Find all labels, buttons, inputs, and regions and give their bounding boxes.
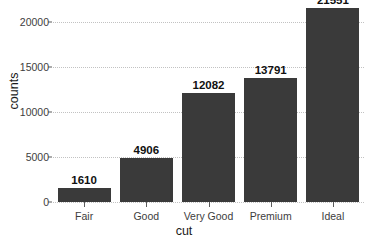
x-axis-tick-mark: [84, 202, 85, 207]
x-axis-tick-mark: [271, 202, 272, 207]
plot-area: 050001000015000200001610Fair4906Good1208…: [53, 4, 364, 202]
x-axis-tick-label: Ideal: [302, 210, 364, 222]
x-axis-tick-label: Good: [115, 210, 177, 222]
x-axis-tick-label: Fair: [53, 210, 115, 222]
x-axis-tick-mark: [209, 202, 210, 207]
bar: [182, 93, 235, 202]
bar: [306, 8, 359, 202]
y-axis-tick-label: 10000: [1, 106, 49, 118]
x-axis-tick-label: Premium: [240, 210, 302, 222]
bar: [244, 78, 297, 202]
bar-value-label: 4906: [120, 144, 173, 156]
x-axis-title: cut: [0, 224, 368, 238]
bar: [120, 158, 173, 202]
x-axis-tick-label: Very Good: [177, 210, 239, 222]
bar-value-label: 1610: [58, 174, 111, 186]
y-axis-tick-label: 15000: [1, 61, 49, 73]
bar-value-label: 13791: [244, 64, 297, 76]
y-axis-tick-label: 20000: [1, 16, 49, 28]
bar-value-label: 12082: [182, 79, 235, 91]
bar: [58, 188, 111, 202]
bar-chart: counts 050001000015000200001610Fair4906G…: [0, 0, 368, 242]
x-axis-tick-mark: [333, 202, 334, 207]
y-axis-tick-label: 0: [1, 196, 49, 208]
bar-value-label: 21551: [306, 0, 359, 6]
x-axis-tick-mark: [146, 202, 147, 207]
y-axis-tick-label: 5000: [1, 151, 49, 163]
